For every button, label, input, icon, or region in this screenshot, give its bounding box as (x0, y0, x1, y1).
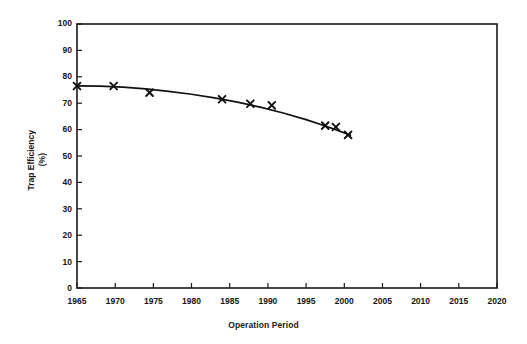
data-point (146, 89, 153, 96)
data-point-markers (74, 83, 352, 139)
trend-line (77, 86, 350, 135)
trap-efficiency-chart: Trap Efficiency (%) 100 90 80 70 60 50 4… (0, 0, 527, 344)
plot-area (0, 0, 527, 344)
x-axis-title: Operation Period (0, 320, 527, 330)
data-point (268, 102, 275, 109)
plot-frame (77, 24, 497, 288)
